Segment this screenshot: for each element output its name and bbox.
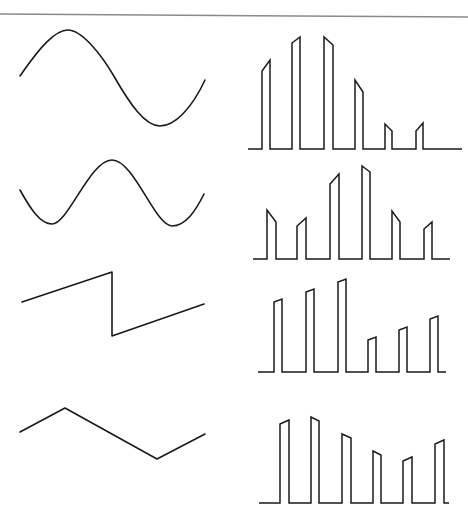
top-border-line [0, 14, 468, 17]
high-frequency-sine-wave-pam-pulse-train [253, 166, 450, 259]
row-sawtooth-wave [22, 272, 446, 372]
sawtooth-wave-analog-signal [22, 272, 204, 336]
row-high-frequency-sine-wave [20, 160, 450, 259]
triangle-wave-analog-signal [20, 408, 205, 459]
waveform-rows [20, 30, 462, 503]
row-sine-wave [20, 30, 462, 149]
row-triangle-wave [20, 408, 449, 503]
sawtooth-wave-pam-pulse-train [258, 279, 446, 372]
triangle-wave-pam-pulse-train [259, 417, 449, 503]
waveform-sampling-diagram [0, 0, 468, 524]
sine-wave-analog-signal [20, 30, 205, 126]
sine-wave-pam-pulse-train [248, 37, 462, 149]
high-frequency-sine-wave-analog-signal [20, 160, 204, 226]
